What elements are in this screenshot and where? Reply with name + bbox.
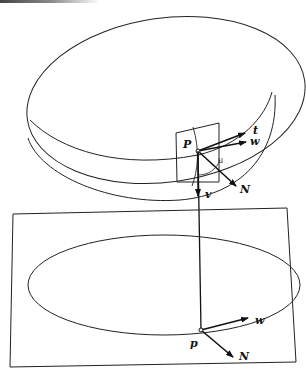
label-w-lower: w xyxy=(255,314,265,327)
t-vector xyxy=(198,133,245,151)
label-v: v xyxy=(205,188,212,201)
label-P: P xyxy=(182,138,192,151)
normal-vector-upper xyxy=(198,151,236,186)
label-p: p xyxy=(190,337,198,350)
label-w-upper: w xyxy=(250,135,260,148)
projection-plane xyxy=(10,208,300,367)
w-vector-upper xyxy=(198,142,246,151)
surface-projection-diagram: P t w N v u p w N xyxy=(0,0,306,376)
projection-line xyxy=(198,151,201,330)
label-angle: u xyxy=(218,156,223,165)
label-N-upper: N xyxy=(239,183,251,196)
label-N-lower: N xyxy=(238,350,250,363)
point-p-marker xyxy=(199,328,203,332)
w-vector-lower xyxy=(201,318,248,330)
normal-vector-lower xyxy=(201,330,233,357)
ellipsoid-surface xyxy=(16,0,306,201)
